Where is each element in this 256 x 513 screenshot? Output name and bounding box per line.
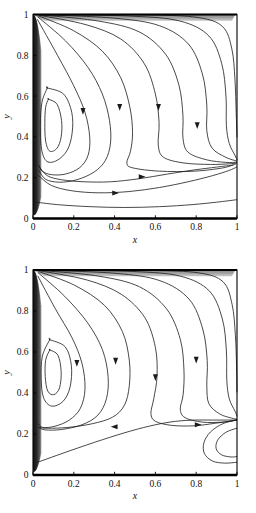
- left-wall-shear-band: [34, 15, 236, 215]
- plot-frame: [33, 15, 237, 219]
- y-tick-label: 1: [24, 10, 29, 20]
- x-tick-label: 0.8: [190, 222, 202, 232]
- streamline: [37, 420, 236, 462]
- streamlines: [37, 270, 237, 463]
- y-tick-label: 0.4: [17, 388, 29, 398]
- flow-arrow: [112, 191, 119, 196]
- plot-frame: [33, 270, 237, 475]
- y-tick-label: 0.6: [17, 347, 29, 357]
- x-tick-label: 0.4: [109, 479, 121, 489]
- x-tick-label: 0.4: [109, 222, 121, 232]
- y-tick-label: 0.8: [17, 306, 29, 316]
- y-tick-label: 0.2: [17, 429, 29, 439]
- streamline: [39, 167, 237, 193]
- y-tick-label: 0.2: [17, 173, 29, 183]
- panel-bottom-svg: 00.20.40.60.8100.20.40.60.81xy: [0, 256, 256, 513]
- y-axis-label: y: [1, 370, 12, 376]
- streamline: [43, 270, 237, 419]
- y-tick-label: 0: [24, 470, 29, 480]
- x-tick-label: 1: [235, 222, 240, 232]
- x-axis-label: x: [132, 234, 138, 245]
- streamline: [33, 200, 236, 208]
- streamline: [40, 15, 237, 164]
- y-tick-label: 1: [24, 265, 29, 275]
- y-tick-label: 0.8: [17, 51, 29, 61]
- flow-arrow: [195, 122, 200, 129]
- streamline-figure: 00.20.40.60.8100.20.40.60.81xy 00.20.40.…: [0, 0, 256, 513]
- streamline: [216, 428, 237, 457]
- panel-bottom: 00.20.40.60.8100.20.40.60.81xy: [0, 256, 256, 513]
- streamline: [50, 270, 237, 392]
- x-tick-label: 0: [31, 479, 36, 489]
- left-wall-shear-band: [34, 271, 236, 472]
- x-tick-label: 0.6: [149, 222, 161, 232]
- x-tick-label: 1: [235, 479, 240, 489]
- streamline: [38, 276, 85, 427]
- panel-top: 00.20.40.60.8100.20.40.60.81xy: [0, 0, 256, 256]
- streamline: [45, 98, 62, 151]
- flow-arrow: [117, 104, 122, 111]
- streamlines: [33, 15, 237, 208]
- streamline: [45, 349, 61, 395]
- flow-arrow: [113, 358, 118, 365]
- streamline: [39, 272, 130, 429]
- streamline: [41, 270, 236, 422]
- flow-arrow: [156, 104, 161, 111]
- y-tick-label: 0.4: [17, 132, 29, 142]
- flow-arrow: [195, 422, 202, 427]
- x-tick-label: 0.8: [190, 479, 202, 489]
- streamline: [41, 15, 237, 163]
- y-axis-label: y: [1, 114, 12, 120]
- x-tick-label: 0.6: [149, 479, 161, 489]
- y-tick-label: 0: [24, 214, 29, 224]
- streamline: [41, 338, 72, 406]
- flow-arrow: [194, 357, 199, 364]
- x-tick-label: 0: [31, 222, 36, 232]
- flow-arrow: [111, 424, 118, 429]
- x-axis-label: x: [132, 490, 138, 501]
- flow-arrow: [74, 360, 79, 367]
- x-tick-label: 0.2: [68, 222, 80, 232]
- y-tick-label: 0.6: [17, 92, 29, 102]
- x-tick-label: 0.2: [68, 479, 80, 489]
- streamline: [37, 20, 89, 175]
- streamline: [40, 271, 237, 426]
- streamline: [43, 15, 237, 161]
- panel-top-svg: 00.20.40.60.8100.20.40.60.81xy: [0, 0, 256, 257]
